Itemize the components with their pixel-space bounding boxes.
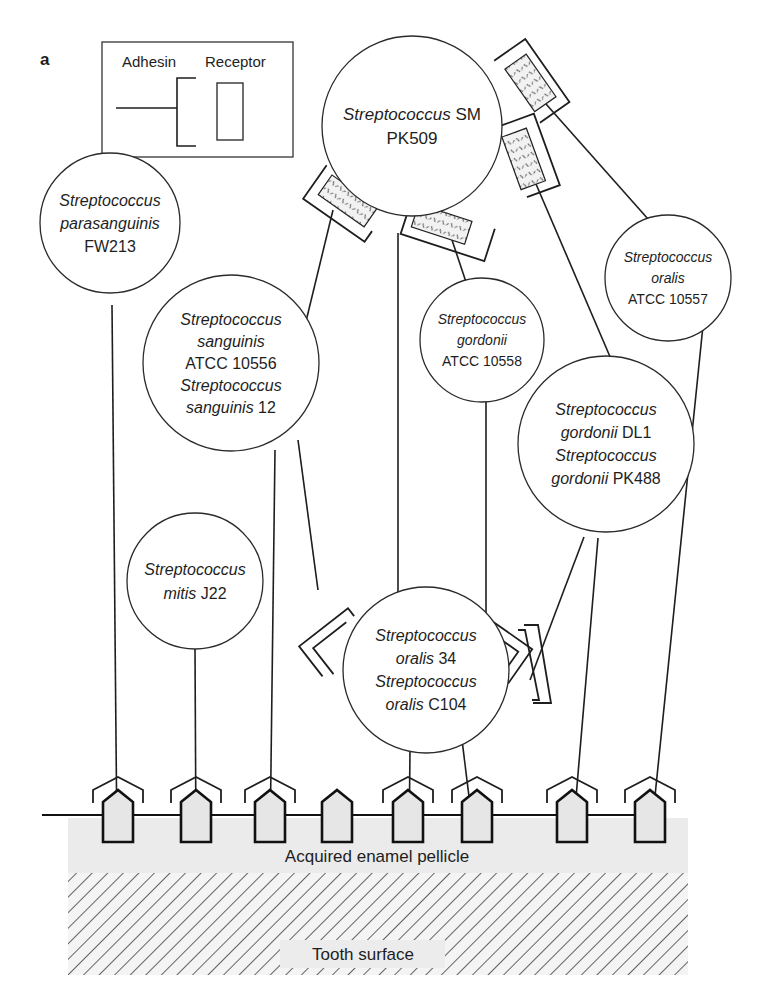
cell-label-line: Streptococcus <box>180 377 281 394</box>
strain-name: C104 <box>424 696 467 713</box>
cell-oralis-10557: StreptococcusoralisATCC 10557 <box>605 215 731 341</box>
cell-sanguinis: StreptococcussanguinisATCC 10556Streptoc… <box>143 275 319 451</box>
cell-label-line: FW213 <box>84 238 136 255</box>
cell-label-line: Streptococcus SM <box>343 105 481 124</box>
cell-label-line: Streptococcus <box>375 673 476 690</box>
cell-label-line: gordonii <box>457 332 508 348</box>
cell-label-line: ATCC 10556 <box>185 355 276 372</box>
cell-oralis-34-c104: Streptococcusoralis 34Streptococcusorali… <box>343 587 509 753</box>
strain-name: PK488 <box>608 470 661 487</box>
species-name: parasanguinis <box>59 215 160 232</box>
cell-label-line: Streptococcus <box>180 311 281 328</box>
cell-gordonii-dl1-pk488: Streptococcusgordonii DL1Streptococcusgo… <box>518 356 694 532</box>
legend-adhesin-label: Adhesin <box>122 53 176 70</box>
cell-label-line: oralis C104 <box>386 696 467 713</box>
species-name: mitis <box>163 585 196 602</box>
strain-name: PK509 <box>386 129 437 148</box>
tooth-label: Tooth surface <box>312 945 414 964</box>
cell-label-line: Streptococcus <box>555 447 656 464</box>
strain-name: 12 <box>254 399 276 416</box>
species-name: Streptococcus <box>555 447 656 464</box>
cell-body <box>127 513 263 649</box>
cell-label-line: parasanguinis <box>59 215 160 232</box>
strain-name: ATCC 10557 <box>628 291 708 307</box>
pellicle-receptor <box>635 790 665 842</box>
pellicle-receptor <box>393 790 423 842</box>
pellicle-receptor <box>322 790 352 842</box>
species-name: Streptococcus <box>438 311 527 327</box>
species-name: Streptococcus <box>624 249 713 265</box>
strain-name: ATCC 10556 <box>185 355 276 372</box>
cell-body <box>322 36 502 216</box>
strain-name: 34 <box>434 650 456 667</box>
species-name: Streptococcus <box>555 401 656 418</box>
substrate: Acquired enamel pellicle Tooth surface <box>42 815 688 975</box>
pellicle-receptor <box>462 790 492 842</box>
cell-sm-pk509: Streptococcus SMPK509 <box>322 36 502 216</box>
species-name: oralis <box>396 650 434 667</box>
pellicle-label: Acquired enamel pellicle <box>285 847 469 866</box>
strain-name: J22 <box>196 585 226 602</box>
species-name: Streptococcus <box>144 561 245 578</box>
cell-label-line: Streptococcus <box>144 561 245 578</box>
cell-label-line: ATCC 10557 <box>628 291 708 307</box>
cell-body <box>518 356 694 532</box>
receptor-symbol-icon <box>217 83 243 140</box>
cell-label-line: sanguinis 12 <box>186 399 276 416</box>
cell-label-line: ATCC 10558 <box>442 353 522 369</box>
coaggregation-diagram: a Adhesin Receptor <box>0 0 771 994</box>
species-name: oralis <box>386 696 424 713</box>
pellicle-receptor <box>557 790 587 842</box>
cell-label-line: Streptococcus <box>375 627 476 644</box>
cell-body <box>343 587 509 753</box>
species-name: Streptococcus <box>343 105 451 124</box>
species-name: Streptococcus <box>180 311 281 328</box>
species-name: oralis <box>651 270 684 286</box>
strain-name: ATCC 10558 <box>442 353 522 369</box>
cell-label-line: Streptococcus <box>438 311 527 327</box>
species-name: sanguinis <box>186 399 254 416</box>
species-name: gordonii <box>457 332 508 348</box>
cell-label-line: oralis 34 <box>396 650 457 667</box>
strain-name: DL1 <box>618 424 652 441</box>
strain-name: SM <box>451 105 481 124</box>
species-name: Streptococcus <box>180 377 281 394</box>
pellicle-receptor <box>255 790 285 842</box>
cell-parasanguinis-fw213: StreptococcusparasanguinisFW213 <box>40 153 180 293</box>
cell-label-line: Streptococcus <box>624 249 713 265</box>
legend-box: Adhesin Receptor <box>102 42 293 157</box>
cell-label-line: mitis J22 <box>163 585 226 602</box>
cell-label-line: sanguinis <box>197 333 265 350</box>
sm-receptor-patch <box>505 54 556 112</box>
cell-label-line: PK509 <box>386 129 437 148</box>
cell-label-line: gordonii DL1 <box>561 424 652 441</box>
species-name: Streptococcus <box>375 627 476 644</box>
species-name: gordonii <box>561 424 618 441</box>
pellicle-receptor <box>181 790 211 842</box>
panel-label: a <box>40 50 50 69</box>
species-name: Streptococcus <box>375 673 476 690</box>
cell-label-line: Streptococcus <box>555 401 656 418</box>
species-name: gordonii <box>551 470 608 487</box>
legend-receptor-label: Receptor <box>205 53 266 70</box>
sm-receptor-patch <box>502 128 546 190</box>
cell-label-line: Streptococcus <box>59 192 160 209</box>
cell-gordonii-10558: StreptococcusgordoniiATCC 10558 <box>420 278 544 402</box>
cell-label-line: gordonii PK488 <box>551 470 661 487</box>
adhesin-caps <box>93 777 675 803</box>
species-name: Streptococcus <box>59 192 160 209</box>
pellicle-receptor <box>103 790 133 842</box>
species-name: sanguinis <box>197 333 265 350</box>
cell-mitis-j22: Streptococcusmitis J22 <box>127 513 263 649</box>
cell-label-line: oralis <box>651 270 684 286</box>
strain-name: FW213 <box>84 238 136 255</box>
